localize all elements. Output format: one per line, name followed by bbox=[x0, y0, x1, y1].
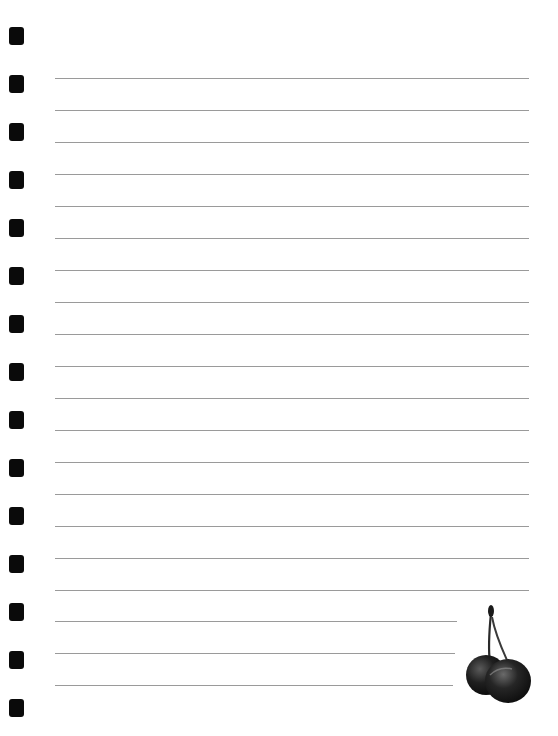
ruled-line bbox=[55, 685, 453, 686]
ruled-line bbox=[55, 174, 529, 175]
ruled-line bbox=[55, 366, 529, 367]
binding-hole bbox=[9, 651, 24, 669]
cherry-pair-icon bbox=[462, 603, 536, 707]
binding-hole bbox=[9, 459, 24, 477]
ruled-line bbox=[55, 526, 529, 527]
ruled-line bbox=[55, 206, 529, 207]
binding-hole bbox=[9, 267, 24, 285]
binding-hole bbox=[9, 123, 24, 141]
binding-hole bbox=[9, 363, 24, 381]
ruled-line bbox=[55, 302, 529, 303]
binding-hole bbox=[9, 603, 24, 621]
ruled-line bbox=[55, 494, 529, 495]
ruled-line bbox=[55, 238, 529, 239]
binding-hole bbox=[9, 171, 24, 189]
ruled-line bbox=[55, 558, 529, 559]
ruled-line bbox=[55, 430, 529, 431]
binding-hole bbox=[9, 75, 24, 93]
ruled-line bbox=[55, 78, 529, 79]
ruled-line bbox=[55, 653, 455, 654]
binding-hole bbox=[9, 411, 24, 429]
binding-hole bbox=[9, 699, 24, 717]
binding-hole bbox=[9, 27, 24, 45]
binding-hole bbox=[9, 315, 24, 333]
ruled-line bbox=[55, 110, 529, 111]
ruled-line bbox=[55, 334, 529, 335]
ruled-line bbox=[55, 398, 529, 399]
ruled-line bbox=[55, 270, 529, 271]
binding-hole bbox=[9, 507, 24, 525]
ruled-line bbox=[55, 142, 529, 143]
ruled-line bbox=[55, 621, 457, 622]
binding-hole bbox=[9, 555, 24, 573]
ruled-line bbox=[55, 462, 529, 463]
binding-hole bbox=[9, 219, 24, 237]
ruled-line bbox=[55, 590, 529, 591]
